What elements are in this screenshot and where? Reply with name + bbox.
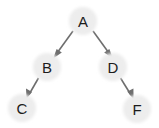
edge-a-to-b [53,31,73,58]
node-f-label: F [132,101,141,118]
node-d-label: D [108,59,119,76]
tree-diagram: A B D C F [0,0,159,128]
node-c-label: C [17,100,28,117]
edge-d-to-f [121,78,134,99]
node-d[interactable]: D [99,53,127,81]
node-group: A B D C F [8,7,151,123]
node-c[interactable]: C [8,94,36,122]
node-b-label: B [42,59,52,76]
node-f[interactable]: F [123,95,151,123]
tree-diagram-canvas: A B D C F [0,0,159,128]
node-b[interactable]: B [33,53,61,81]
node-a[interactable]: A [69,7,97,35]
node-a-label: A [78,13,88,30]
